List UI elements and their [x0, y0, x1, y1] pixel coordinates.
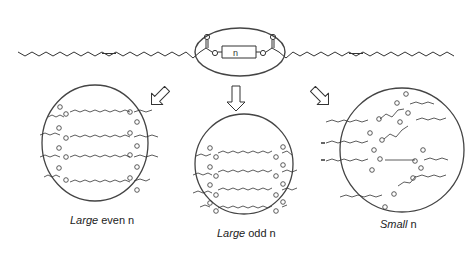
- label-large-even-italic: Large: [70, 214, 98, 226]
- label-large-even-rest: even n: [98, 214, 134, 226]
- right-fatty-chain: [279, 52, 454, 58]
- label-large-odd-rest: odd n: [245, 227, 276, 239]
- spacer-n-box: [222, 46, 256, 58]
- panel-small: [321, 88, 464, 212]
- left-fatty-chain: [18, 52, 200, 58]
- label-small-rest: n: [408, 218, 417, 230]
- panel-large-even: [40, 85, 158, 201]
- label-small: Small n: [380, 218, 417, 230]
- label-large-odd: Large odd n: [217, 227, 276, 239]
- panel-large-odd: [193, 114, 297, 214]
- arrow-left-down-icon: [146, 83, 173, 110]
- label-large-odd-italic: Large: [217, 227, 245, 239]
- label-small-italic: Small: [380, 218, 408, 230]
- label-large-even: Large even n: [70, 214, 134, 226]
- spacer-n-text: n: [233, 48, 238, 58]
- arrow-down-icon: [227, 86, 245, 111]
- arrow-right-down-icon: [307, 83, 334, 110]
